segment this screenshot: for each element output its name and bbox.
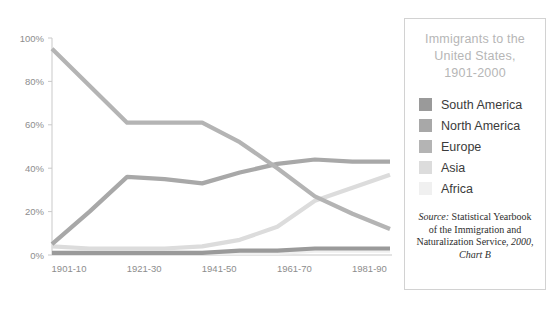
legend-item-list: South AmericaNorth AmericaEuropeAsiaAfri… <box>419 94 537 199</box>
legend-swatch-icon <box>419 119 432 132</box>
x-axis-tick-label: 1921-30 <box>127 263 162 274</box>
x-axis-tick-label: 1981-90 <box>352 263 387 274</box>
legend-item: South America <box>419 94 537 115</box>
y-axis-tick-label: 40% <box>25 163 45 174</box>
y-axis-tick-label: 80% <box>25 76 45 87</box>
legend-panel: Immigrants to the United States, 1901-20… <box>404 18 546 290</box>
legend-item-label: South America <box>441 98 522 112</box>
source-prefix: Source: <box>418 211 449 222</box>
x-axis-tick-label: 1961-70 <box>277 263 312 274</box>
x-axis-tick-label: 1941-50 <box>202 263 237 274</box>
chart-plot-region: 0%20%40%60%80%100%1901-101921-301941-501… <box>0 0 400 316</box>
series-line <box>52 160 390 245</box>
legend-item: Africa <box>419 178 537 199</box>
immigration-line-chart-figure: 0%20%40%60%80%100%1901-101921-301941-501… <box>0 0 556 316</box>
legend-item-label: Europe <box>441 140 481 154</box>
legend-item: Asia <box>419 157 537 178</box>
series-line <box>52 175 390 249</box>
chart-canvas: 0%20%40%60%80%100%1901-101921-301941-501… <box>0 0 400 316</box>
legend-title-line-3: 1901-2000 <box>413 65 537 82</box>
legend-title-line-2: United States, <box>413 48 537 65</box>
legend-item: Europe <box>419 136 537 157</box>
legend-item-label: Africa <box>441 182 473 196</box>
y-axis-tick-label: 60% <box>25 119 45 130</box>
legend-title: Immigrants to the United States, 1901-20… <box>413 31 537 82</box>
legend-item-label: Asia <box>441 161 465 175</box>
legend-swatch-icon <box>419 98 432 111</box>
legend-item: North America <box>419 115 537 136</box>
y-axis-tick-label: 20% <box>25 206 45 217</box>
legend-item-label: North America <box>441 119 520 133</box>
legend-swatch-icon <box>419 182 432 195</box>
y-axis-tick-label: 0% <box>30 250 44 261</box>
x-axis-tick-label: 1901-10 <box>52 263 87 274</box>
legend-swatch-icon <box>419 140 432 153</box>
source-note: Source: Statistical Yearbook of the Immi… <box>413 211 537 261</box>
y-axis-tick-label: 100% <box>20 33 45 44</box>
legend-title-line-1: Immigrants to the <box>413 31 537 48</box>
legend-swatch-icon <box>419 161 432 174</box>
